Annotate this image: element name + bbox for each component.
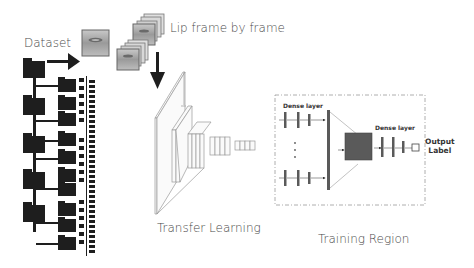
folder-icon — [23, 133, 45, 153]
training-region-label: Training Region — [318, 232, 409, 246]
output-label-line2: Label — [425, 146, 455, 155]
output-label-line1: Output — [425, 137, 455, 146]
folder-icon — [23, 202, 45, 222]
folder-icon — [23, 58, 45, 78]
dataset-label: Dataset — [24, 36, 71, 50]
folder-icon — [23, 95, 45, 115]
lip-frames-label: Lip frame by frame — [170, 21, 285, 35]
dense-layer-right — [374, 137, 419, 157]
lip-image — [82, 30, 109, 56]
folder-icon — [23, 169, 45, 189]
dense-layer-left-label: Dense layer — [283, 102, 323, 109]
arrow-down-icon — [150, 52, 165, 89]
merge-block — [345, 133, 372, 160]
cnn-transfer-learning-graphic — [155, 72, 255, 214]
transfer-learning-label: Transfer Learning — [157, 221, 261, 235]
arrow-right-icon — [47, 53, 80, 70]
dense-layer-right-label: Dense layer — [375, 124, 415, 131]
output-node — [412, 144, 419, 151]
dataset-folder-tree — [23, 58, 95, 256]
output-label: Output Label — [425, 137, 455, 155]
